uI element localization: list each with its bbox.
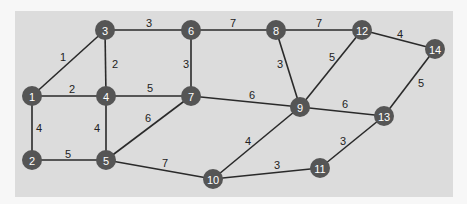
edge-11-13 [320,116,384,168]
node-6: 6 [181,20,201,40]
node-label: 4 [103,91,109,103]
edge-weight-label: 1 [60,51,66,63]
node-8: 8 [266,20,286,40]
node-14: 14 [425,39,445,59]
node-12: 12 [352,20,372,40]
weighted-graph: 1245325467376735643345 12345678910111213… [0,0,467,204]
edge-weight-label: 2 [112,58,118,70]
edge-weight-label: 6 [342,98,348,110]
node-7: 7 [181,86,201,106]
edge-weight-label: 3 [340,135,346,147]
edge-weight-label: 4 [397,28,403,40]
edge-weight-label: 3 [183,58,189,70]
edge-weight-label: 6 [145,112,151,124]
edge-weight-label: 3 [146,17,152,29]
node-1: 1 [22,86,42,106]
node-11: 11 [310,158,330,178]
nodes-layer: 1234567891011121314 [22,20,445,189]
edge-weight-label: 6 [249,89,255,101]
edge-10-11 [213,168,320,179]
edge-13-14 [384,49,435,116]
edge-weight-label: 3 [274,159,280,171]
node-3: 3 [95,20,115,40]
node-label: 5 [103,155,109,167]
edge-weight-label: 5 [329,51,335,63]
edge-weight-label: 4 [94,122,100,134]
node-label: 11 [314,163,325,175]
node-4: 4 [96,86,116,106]
edge-weight-label: 3 [277,58,283,70]
node-label: 7 [188,91,194,103]
node-5: 5 [96,150,116,170]
node-10: 10 [203,169,223,189]
node-label: 6 [188,25,194,37]
edge-weight-label: 7 [230,17,236,29]
edge-9-12 [300,30,362,107]
edges-layer [32,30,435,179]
node-13: 13 [374,106,394,126]
edge-weight-label: 4 [36,122,42,134]
node-label: 9 [297,102,303,114]
edge-7-9 [191,96,300,107]
edge-weight-label: 5 [418,77,424,89]
edge-weight-label: 7 [162,157,168,169]
node-label: 12 [356,25,368,37]
edge-weight-label: 7 [316,17,322,29]
node-label: 13 [378,111,390,123]
node-label: 8 [273,25,279,37]
edge-9-10 [213,107,300,179]
node-label: 3 [102,25,108,37]
node-label: 10 [207,174,219,186]
edge-weight-label: 4 [245,135,251,147]
node-label: 1 [29,91,35,103]
edge-weight-label: 5 [65,148,71,160]
node-2: 2 [22,150,42,170]
node-9: 9 [290,97,310,117]
edge-5-10 [106,160,213,179]
edge-weight-label: 5 [147,82,153,94]
edge-weight-label: 2 [69,83,75,95]
node-label: 2 [29,155,35,167]
node-label: 14 [429,44,441,56]
edge-5-7 [106,96,191,160]
